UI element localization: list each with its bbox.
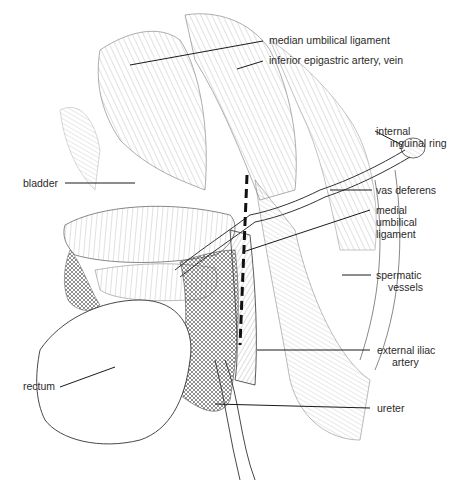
label-internal-inguinal-ring: internal inguinal ring bbox=[376, 125, 447, 149]
label-line: vessels bbox=[376, 281, 423, 293]
label-vas-deferens: vas deferens bbox=[376, 184, 436, 196]
anatomy-illustration bbox=[0, 0, 465, 489]
label-line: external iliac bbox=[377, 344, 435, 356]
label-spermatic-vessels: spermatic vessels bbox=[376, 269, 423, 293]
label-line: artery bbox=[377, 356, 435, 368]
label-rectum: rectum bbox=[23, 380, 55, 392]
label-line: spermatic bbox=[376, 269, 423, 281]
label-line: medial bbox=[376, 204, 417, 216]
label-ureter: ureter bbox=[377, 402, 404, 414]
label-median-umbilical-ligament: median umbilical ligament bbox=[269, 34, 390, 46]
label-inferior-epigastric: inferior epigastric artery, vein bbox=[269, 54, 403, 66]
label-line: ligament bbox=[376, 228, 417, 240]
label-external-iliac-artery: external iliac artery bbox=[377, 344, 435, 368]
label-medial-umbilical-ligament: medial umbilical ligament bbox=[376, 204, 417, 240]
label-line: internal bbox=[376, 125, 447, 137]
rectum-shape bbox=[37, 300, 191, 444]
label-line: inguinal ring bbox=[376, 137, 447, 149]
label-bladder: bladder bbox=[23, 177, 58, 189]
label-line: umbilical bbox=[376, 216, 417, 228]
